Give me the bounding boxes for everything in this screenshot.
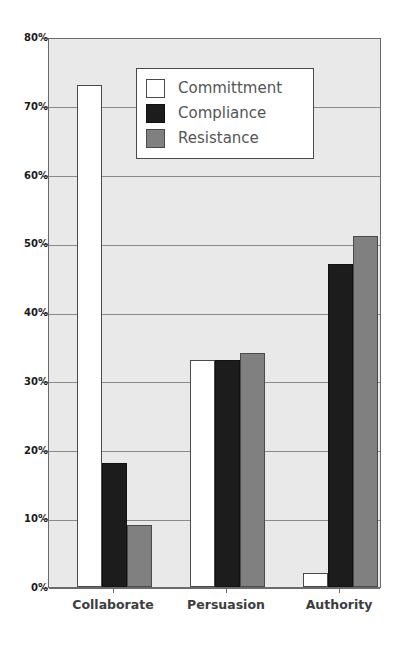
legend-label-compliance: Compliance — [178, 106, 266, 121]
legend-swatch-resistance-icon — [146, 129, 165, 148]
legend-item-committment[interactable]: Committment — [146, 76, 304, 101]
bar-authority-resistance — [353, 236, 378, 587]
legend-item-compliance[interactable]: Compliance — [146, 101, 304, 126]
x-tick-label-persuasion: Persuasion — [187, 597, 265, 612]
chart-legend: CommittmentComplianceResistance — [136, 68, 314, 159]
legend-item-resistance[interactable]: Resistance — [146, 126, 304, 151]
bar-persuasion-resistance — [240, 353, 265, 587]
bar-authority-compliance — [328, 264, 353, 587]
legend-swatch-committment-icon — [146, 79, 165, 98]
legend-label-committment: Committment — [178, 81, 282, 96]
legend-swatch-compliance-icon — [146, 104, 165, 123]
x-tick-label-collaborate: Collaborate — [72, 597, 153, 612]
bar-collaborate-compliance — [102, 463, 127, 587]
x-tick-mark-authority — [339, 589, 340, 593]
x-tick-mark-collaborate — [113, 589, 114, 593]
axis-baseline — [49, 588, 380, 589]
y-tick-mark-0 — [42, 588, 48, 589]
legend-label-resistance: Resistance — [178, 131, 259, 146]
bar-chart-figure: 0%10%20%30%40%50%60%70%80% CollaboratePe… — [0, 0, 407, 648]
bar-collaborate-committment — [77, 85, 102, 587]
x-tick-mark-persuasion — [226, 589, 227, 593]
bar-persuasion-committment — [190, 360, 215, 587]
bar-authority-committment — [303, 573, 328, 587]
bar-persuasion-compliance — [215, 360, 240, 587]
x-tick-label-authority: Authority — [306, 597, 373, 612]
bar-collaborate-resistance — [127, 525, 152, 587]
